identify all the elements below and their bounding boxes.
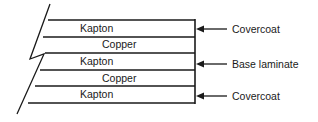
callout-label: Covercoat [232,90,280,102]
break-line [17,4,50,114]
layer-label: Copper [102,72,137,84]
layer-label: Kapton [80,55,113,67]
layer-label: Kapton [80,88,113,100]
flex-circuit-layer-diagram: Kapton Copper Kapton Copper Kapton Cover… [0,0,318,122]
arrowhead-icon [196,93,204,100]
callout-label: Covercoat [232,23,280,35]
arrowhead-icon [196,26,204,33]
layer-label: Copper [102,38,137,50]
callout-label: Base laminate [232,58,299,70]
layer-label: Kapton [80,22,113,34]
arrowhead-icon [196,61,204,68]
